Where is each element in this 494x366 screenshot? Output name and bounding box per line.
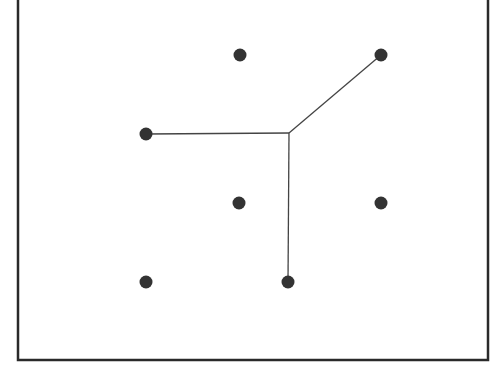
diagram-frame [18,0,488,360]
tree-edge [146,133,289,134]
terminal-node [233,197,246,210]
terminal-node [282,276,295,289]
tree-edge [288,133,289,282]
diagram-canvas [0,0,494,366]
tree-edge [289,55,381,133]
terminal-node [375,49,388,62]
terminal-node [234,49,247,62]
terminal-node [375,197,388,210]
terminal-node [140,128,153,141]
terminal-node [140,276,153,289]
